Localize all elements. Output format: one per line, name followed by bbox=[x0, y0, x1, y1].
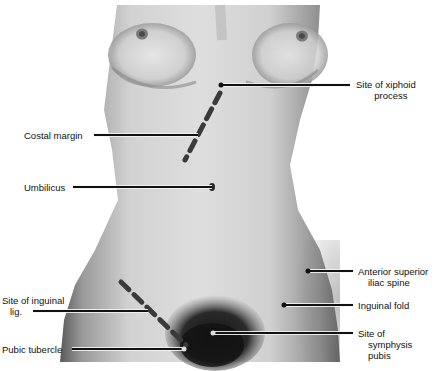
label-symphysis: Site of symphysis pubis bbox=[358, 328, 412, 361]
label-inguinal-ligament: Site of inguinal lig. bbox=[2, 295, 64, 317]
label-umbilicus: Umbilicus bbox=[24, 182, 65, 193]
label-asis: Anterior superior iliac spine bbox=[358, 266, 428, 288]
label-xiphoid: Site of xiphoid process bbox=[356, 79, 416, 101]
anatomy-figure bbox=[0, 0, 445, 371]
left-breast bbox=[108, 23, 196, 87]
label-costal-margin: Costal margin bbox=[24, 130, 83, 141]
label-pubic-tubercle: Pubic tubercle bbox=[2, 344, 62, 355]
label-inguinal-fold: Inguinal fold bbox=[358, 300, 409, 311]
right-breast bbox=[252, 23, 328, 87]
